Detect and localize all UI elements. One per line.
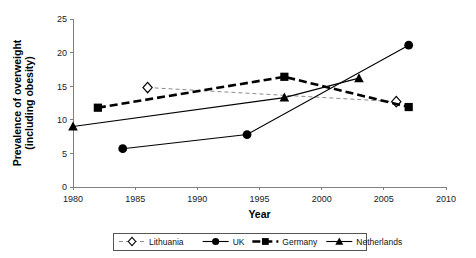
y-tick-label-5: 5 xyxy=(62,149,67,159)
data-point-uk-2007 xyxy=(404,41,413,50)
y-tick-label-25: 25 xyxy=(57,14,67,24)
legend-label-netherlands: Netherlands xyxy=(356,237,402,247)
x-tick-label-2000: 2000 xyxy=(312,194,332,204)
legend-label-uk: UK xyxy=(233,237,245,247)
data-point-lithuania-1986 xyxy=(143,82,152,92)
x-tick-label-1990: 1990 xyxy=(187,194,207,204)
y-tick-label-15: 15 xyxy=(57,82,67,92)
y-axis-title: Prevalence of overweight(including obesi… xyxy=(11,39,35,166)
data-point-uk-1984 xyxy=(118,144,127,153)
y-tick-label-20: 20 xyxy=(57,48,67,58)
series-line-uk xyxy=(123,45,409,148)
x-axis-title: Year xyxy=(248,208,270,220)
data-point-germany-1982 xyxy=(94,104,102,112)
x-tick-label-1995: 1995 xyxy=(249,194,269,204)
data-point-germany-2007 xyxy=(405,103,413,111)
legend-label-germany: Germany xyxy=(282,237,318,247)
y-tick-label-10: 10 xyxy=(57,115,67,125)
chart-canvas: 05101520251980198519901995200020052010Ye… xyxy=(0,0,476,258)
legend-marker-uk xyxy=(212,238,219,245)
x-tick-label-1985: 1985 xyxy=(125,194,145,204)
data-point-uk-1994 xyxy=(243,130,252,139)
data-point-germany-1997 xyxy=(280,73,288,81)
x-tick-label-2010: 2010 xyxy=(436,194,456,204)
x-tick-label-2005: 2005 xyxy=(374,194,394,204)
chart-figure: 05101520251980198519901995200020052010Ye… xyxy=(0,0,476,258)
x-tick-label-1980: 1980 xyxy=(63,194,83,204)
legend-label-lithuania: Lithuania xyxy=(149,237,184,247)
legend-marker-germany xyxy=(262,238,269,245)
y-tick-label-0: 0 xyxy=(62,182,67,192)
